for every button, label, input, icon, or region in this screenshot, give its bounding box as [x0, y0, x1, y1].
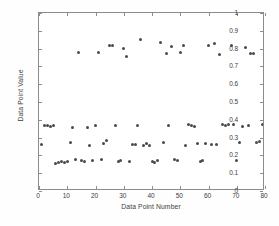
y-axis-tick-label: 0.4: [216, 115, 238, 122]
data-point: [165, 52, 168, 55]
x-axis-tick: [209, 186, 210, 189]
data-point: [52, 124, 55, 127]
y-axis-tick: [39, 173, 42, 174]
data-point: [136, 124, 139, 127]
x-axis-tick: [265, 186, 266, 189]
data-point: [128, 160, 131, 163]
data-point: [71, 126, 74, 129]
y-axis-tick: [39, 66, 42, 67]
y-axis-tick-label: 0.9: [216, 26, 238, 33]
y-axis-tick: [260, 66, 263, 67]
y-axis-tick: [39, 120, 42, 121]
x-axis-tick: [152, 13, 153, 16]
data-point: [74, 158, 77, 161]
data-point: [105, 139, 108, 142]
data-point: [218, 53, 221, 56]
data-point: [148, 144, 151, 147]
data-point: [167, 124, 170, 127]
data-point: [66, 160, 69, 163]
data-point: [170, 45, 173, 48]
data-point: [83, 160, 86, 163]
y-axis-tick-label: 1: [216, 9, 238, 16]
x-axis-tick: [39, 186, 40, 189]
data-point: [232, 123, 235, 126]
data-point: [201, 159, 204, 162]
data-point: [122, 47, 125, 50]
data-point: [235, 159, 238, 162]
x-axis-tick-label: 80: [252, 192, 276, 199]
y-axis-tick: [260, 49, 263, 50]
y-axis-tick: [260, 138, 263, 139]
data-point: [91, 159, 94, 162]
x-axis-tick-label: 20: [83, 192, 107, 199]
x-axis-tick: [124, 186, 125, 189]
x-axis-tick-label: 50: [167, 192, 191, 199]
data-point: [238, 141, 241, 144]
x-axis-tick: [152, 186, 153, 189]
y-axis-tick: [260, 31, 263, 32]
data-point: [261, 123, 263, 126]
data-point: [179, 51, 182, 54]
x-axis-tick: [67, 13, 68, 16]
data-point: [94, 124, 97, 127]
data-point: [139, 38, 142, 41]
data-point: [102, 142, 105, 145]
x-axis-tick: [67, 186, 68, 189]
data-point: [193, 125, 196, 128]
data-point: [125, 55, 128, 58]
data-point: [241, 125, 244, 128]
data-point: [244, 46, 247, 49]
data-point: [114, 124, 117, 127]
data-point: [69, 141, 72, 144]
data-point: [40, 143, 43, 146]
x-axis-tick: [180, 13, 181, 16]
y-axis-tick: [260, 120, 263, 121]
y-axis-tick: [39, 138, 42, 139]
data-point: [97, 51, 100, 54]
data-point: [184, 144, 187, 147]
data-point: [207, 44, 210, 47]
y-axis-tick: [39, 31, 42, 32]
y-axis-tick: [39, 155, 42, 156]
x-axis-tick-label: 40: [139, 192, 163, 199]
data-point: [100, 158, 103, 161]
x-axis-tick: [39, 13, 40, 16]
data-point: [159, 41, 162, 44]
y-axis-tick-label: 0.8: [216, 44, 238, 51]
data-point: [227, 123, 230, 126]
data-point: [258, 140, 261, 143]
data-point: [88, 144, 91, 147]
y-axis-tick: [39, 49, 42, 50]
data-point: [111, 44, 114, 47]
data-point: [156, 159, 159, 162]
x-axis-tick: [209, 13, 210, 16]
scatter-plot-figure: 00.10.20.30.40.50.60.70.80.9101020304050…: [0, 0, 279, 226]
x-axis-tick-label: 0: [26, 192, 50, 199]
y-axis-tick-label: 0.2: [216, 151, 238, 158]
x-axis-tick-label: 70: [224, 192, 248, 199]
y-axis-tick-label: 0.5: [216, 98, 238, 105]
data-point: [204, 142, 207, 145]
data-point: [182, 44, 185, 47]
x-axis-tick-label: 30: [111, 192, 135, 199]
y-axis-tick: [260, 102, 263, 103]
y-axis-tick: [260, 84, 263, 85]
x-axis-tick: [124, 13, 125, 16]
y-axis-tick: [39, 102, 42, 103]
y-axis-tick: [260, 155, 263, 156]
y-axis-title: Data Point Value: [17, 46, 24, 146]
x-axis-tick: [96, 13, 97, 16]
data-point: [176, 159, 179, 162]
x-axis-tick: [96, 186, 97, 189]
y-axis-tick-label: 0.3: [216, 133, 238, 140]
x-axis-tick: [180, 186, 181, 189]
data-point: [215, 143, 218, 146]
y-axis-tick-label: 0.7: [216, 62, 238, 69]
data-point: [210, 143, 213, 146]
data-point: [252, 52, 255, 55]
y-axis-tick: [260, 173, 263, 174]
y-axis-tick: [260, 13, 263, 14]
y-axis-tick: [39, 84, 42, 85]
data-point: [86, 126, 89, 129]
data-point: [134, 143, 137, 146]
